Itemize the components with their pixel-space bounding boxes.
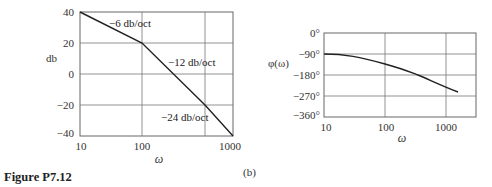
- figure-canvas: 40 20 0 −20 −40 10 100 1000 db ω −6 db/o…: [0, 0, 492, 187]
- phase-xlabel: ω: [398, 131, 406, 145]
- phase-ytick-360: −360°: [293, 109, 320, 121]
- mag-xtick-100: 100: [134, 140, 151, 152]
- mag-xlabel: ω: [155, 152, 163, 166]
- phase-curve: [324, 54, 458, 92]
- phase-ytick-0: 0°: [310, 27, 320, 39]
- slope-annotation-12db: −12 db/oct: [168, 56, 215, 68]
- magnitude-plot: 40 20 0 −20 −40 10 100 1000 db ω −6 db/o…: [46, 6, 242, 166]
- phase-ytick-90: −90°: [298, 48, 320, 60]
- mag-xtick-10: 10: [76, 140, 88, 152]
- mag-ytick-m40: −40: [57, 127, 75, 139]
- mag-xtick-1000: 1000: [219, 140, 242, 152]
- phase-xtick-100: 100: [378, 121, 395, 133]
- mag-ytick-m20: −20: [57, 99, 75, 111]
- subfigure-label: (b): [243, 166, 256, 178]
- phase-ylabel: φ(ω): [268, 57, 289, 70]
- phase-xtick-10: 10: [321, 121, 333, 133]
- mag-ytick-0: 0: [69, 68, 75, 80]
- slope-annotation-6db: −6 db/oct: [109, 17, 151, 29]
- mag-ytick-40: 40: [63, 6, 75, 18]
- phase-ytick-270: −270°: [293, 90, 320, 102]
- phase-ytick-180: −180°: [293, 69, 320, 81]
- phase-gridlines: [324, 33, 476, 117]
- mag-ytick-20: 20: [63, 37, 75, 49]
- phase-plot: 0° −90° −180° −270° −360° 10 100 1000 φ(…: [268, 27, 476, 145]
- figure-caption: Figure P7.12: [4, 170, 72, 185]
- slope-annotation-24db: −24 db/oct: [161, 111, 208, 123]
- mag-ylabel: db: [46, 52, 58, 64]
- phase-xtick-1000: 1000: [435, 121, 458, 133]
- magnitude-gridlines: [80, 12, 233, 136]
